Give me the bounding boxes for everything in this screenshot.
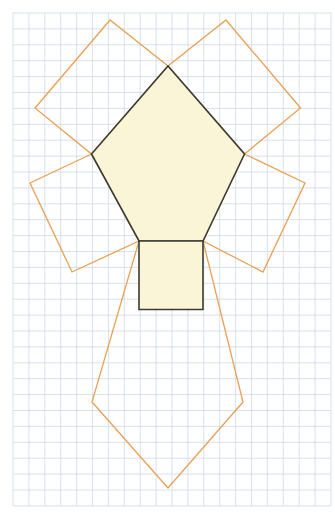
figure-canvas: [0, 0, 335, 520]
highlighted-base-square[interactable]: [139, 241, 203, 310]
geometry-figure-svg: [0, 0, 335, 520]
